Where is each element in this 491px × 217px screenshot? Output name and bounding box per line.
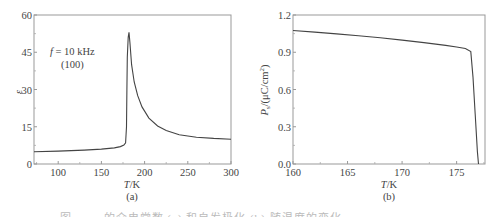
x-tick-label: 150 [94, 167, 110, 178]
x-tick-label: 170 [394, 167, 410, 178]
panel-a-x-axis-label: T/K [124, 179, 141, 190]
figure: 100150200250300015304560 f = 10 kHz (100… [0, 0, 491, 217]
y-tick-label: 0 [27, 159, 32, 170]
figure-caption-cut: 图 …… 的介电常数 (a) 和自发极化 (b) 随温度的变化 [60, 211, 430, 217]
x-tick-label: 200 [137, 167, 153, 178]
panel-a: 100150200250300015304560 f = 10 kHz (100… [13, 10, 239, 203]
panel-b-plot-area [293, 15, 485, 164]
x-tick-label: 250 [180, 167, 196, 178]
x-tick-label: 100 [50, 167, 66, 178]
panel-b: 1601651701750.00.30.60.91.2 Ps/(μC/cm2) … [258, 10, 485, 203]
panel-b-label: (b) [383, 191, 396, 203]
y-tick-label: 15 [22, 122, 33, 133]
y-tick-label: 60 [22, 10, 33, 21]
y-tick-label: 0.6 [278, 85, 291, 96]
y-tick-label: 1.2 [278, 10, 291, 21]
panel-b-polarization-curve [293, 31, 479, 165]
panel-b-y-axis-label: Ps/(μC/cm2) [258, 64, 272, 116]
panel-a-label: (a) [126, 191, 138, 203]
y-tick-label: 0.9 [278, 47, 291, 58]
figure-caption: 图 …… 的介电常数 (a) 和自发极化 (b) 随温度的变化 [60, 211, 430, 217]
panel-a-plot-area [34, 15, 231, 164]
panel-a-annotation-orientation: (100) [61, 59, 84, 71]
panel-b-ticks: 1601651701750.00.30.60.91.2 [278, 10, 484, 178]
x-tick-label: 300 [223, 167, 239, 178]
panel-a-annotation-frequency: f = 10 kHz [50, 46, 95, 57]
panel-b-x-axis-label: T/K [381, 179, 398, 190]
x-tick-label: 175 [449, 167, 465, 178]
y-tick-label: 45 [22, 47, 33, 58]
panel-a-ticks: 100150200250300015304560 [22, 10, 239, 178]
x-tick-label: 165 [340, 167, 356, 178]
y-tick-label: 0.3 [278, 122, 291, 133]
y-tick-label: 0.0 [278, 159, 291, 170]
